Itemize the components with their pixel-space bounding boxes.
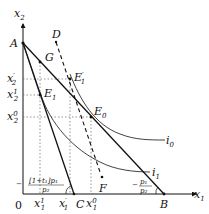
xtick-x1-0: x01 [86, 197, 97, 212]
label-i0: i0 [166, 134, 175, 149]
ytick-x2-0: x02 [7, 110, 19, 125]
axes [23, 24, 196, 194]
svg-text:p₁: p₁ [140, 178, 147, 186]
indifference-curve-i1 [40, 92, 150, 172]
tax-budget-diagram: x2 x1 0 A D G E′1 E1 E0 F C B [0, 0, 209, 214]
point-E0 [90, 116, 93, 119]
budget-line-AB [23, 43, 164, 194]
label-A: A [9, 37, 18, 50]
ytick-x2-1: x12 [7, 88, 19, 103]
y-axis-label: x2 [14, 7, 25, 22]
point-D [55, 41, 57, 43]
label-E1: E1 [43, 87, 57, 102]
point-F [101, 176, 104, 179]
point-A [21, 41, 24, 44]
label-F: F [98, 182, 107, 195]
xtick-x1prime: x′1 [59, 197, 68, 212]
svg-text:−: − [16, 180, 22, 188]
point-G [39, 61, 42, 64]
slope-label-original: − p₁ p₂ [132, 178, 152, 195]
label-i1: i1 [152, 166, 160, 181]
xtick-x1-1: x11 [34, 197, 45, 212]
line-A-E1 [23, 43, 40, 95]
svg-text:−: − [132, 181, 138, 189]
point-C [73, 193, 76, 196]
x-axis-label: x1 [194, 188, 205, 203]
ytick-x2prime: x′2 [7, 72, 17, 87]
point-E1 [39, 94, 42, 97]
svg-text:p₂: p₂ [140, 187, 147, 195]
label-C: C [76, 198, 85, 211]
label-G: G [45, 51, 54, 64]
point-E1prime [69, 78, 72, 81]
label-B: B [159, 198, 168, 211]
label-E1prime: E′1 [73, 71, 85, 86]
angle-arc-C [66, 186, 71, 194]
svg-text:[1+t₁]p₁: [1+t₁]p₁ [29, 177, 58, 185]
svg-text:p₂: p₂ [42, 186, 49, 194]
origin-label: 0 [15, 199, 22, 212]
point-B [163, 193, 166, 196]
label-E0: E0 [93, 105, 107, 120]
label-D: D [51, 28, 61, 41]
